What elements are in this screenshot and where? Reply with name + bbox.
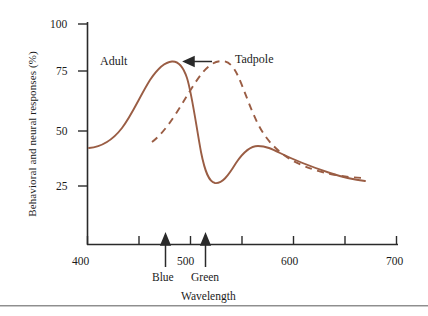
marker-label-green: Green	[191, 271, 219, 283]
y-tick-label-100: 100	[50, 18, 67, 30]
curve-adult	[89, 61, 365, 183]
peak-shift-arrow	[184, 57, 212, 66]
x-tick-label-600: 600	[281, 255, 298, 267]
y-tick-label-25: 25	[56, 180, 68, 192]
series-label-adult: Adult	[100, 54, 127, 69]
green-marker-arrow	[201, 234, 210, 267]
y-axis-ticks	[78, 24, 88, 186]
y-tick-label-50: 50	[56, 125, 68, 137]
x-tick-label-500: 500	[177, 255, 194, 267]
x-axis-ticks	[88, 236, 397, 244]
series-label-tadpole: Tadpole	[235, 52, 273, 67]
marker-label-blue: Blue	[152, 271, 174, 283]
figure-container: Behavioral and neural responses (%) 100 …	[0, 0, 428, 316]
x-tick-label-700: 700	[386, 255, 403, 267]
page-divider-rule-shadow	[0, 306, 428, 307]
plot-svg	[0, 0, 428, 316]
blue-marker-arrow	[161, 234, 170, 267]
y-tick-label-75: 75	[56, 65, 68, 77]
x-axis-title: Wavelength	[181, 290, 236, 302]
x-tick-label-400: 400	[72, 255, 89, 267]
y-axis-title: Behavioral and neural responses (%)	[26, 26, 38, 242]
curve-tadpole	[152, 61, 365, 178]
